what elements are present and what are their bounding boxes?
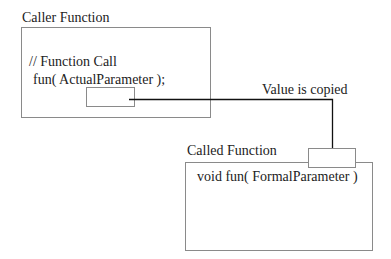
called-function-title: Called Function: [187, 143, 277, 159]
formal-parameter-box: [308, 148, 356, 168]
arrow-label: Value is copied: [262, 82, 348, 98]
called-signature: void fun( FormalParameter ): [197, 169, 358, 185]
